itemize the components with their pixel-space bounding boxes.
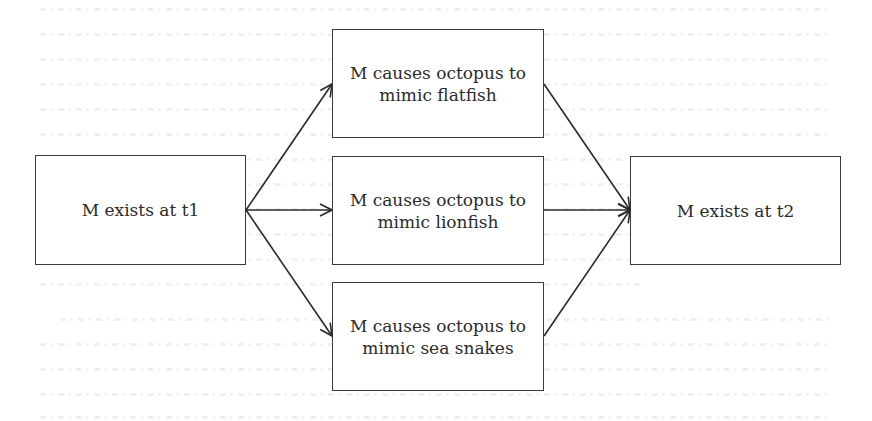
node-label: M exists at t2 (677, 200, 795, 222)
node-label-line-2: mimic flatfish (350, 84, 526, 106)
arrow-t1-to-flatfish (246, 84, 332, 210)
node-mimic-lionfish: M causes octopus to mimic lionfish (332, 156, 544, 265)
node-label-line-1: M causes octopus to (350, 315, 526, 337)
node-mimic-sea-snakes: M causes octopus to mimic sea snakes (332, 282, 544, 391)
node-label: M exists at t1 (82, 199, 200, 221)
arrow-t1-to-seasnakes (246, 210, 332, 336)
node-label-line-1: M causes octopus to (350, 189, 526, 211)
node-m-exists-at-t2: M exists at t2 (630, 156, 841, 265)
arrow-seasnakes-to-t2 (544, 210, 630, 336)
node-label-line-2: mimic lionfish (350, 211, 526, 233)
node-m-exists-at-t1: M exists at t1 (35, 155, 246, 265)
arrow-flatfish-to-t2 (544, 84, 630, 210)
node-label-line-1: M causes octopus to (350, 62, 526, 84)
node-mimic-flatfish: M causes octopus to mimic flatfish (332, 29, 544, 138)
node-label-line-2: mimic sea snakes (350, 337, 526, 359)
